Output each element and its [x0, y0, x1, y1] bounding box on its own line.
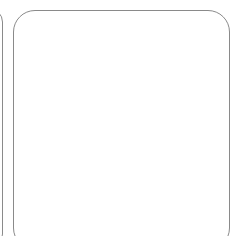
base-ten-blocks [0, 0, 238, 236]
